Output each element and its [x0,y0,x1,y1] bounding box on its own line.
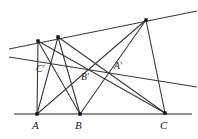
upper-line-P1P2P3 [9,11,197,49]
segment-A-P1 [37,41,38,114]
lines-group [9,11,197,114]
vertex-marker-p1 [36,39,39,42]
segment-C-P2 [58,37,165,113]
vertex-marker-p2 [56,35,59,38]
point-label-C-prime: C' [36,65,44,75]
segment-C-P1 [38,41,165,113]
point-label-A: A [32,120,39,131]
point-label-B: B [75,120,82,131]
point-label-B-prime: B' [81,73,89,83]
geometry-figure: A B C A' B' C' [0,0,198,139]
vertex-marker-a [35,112,38,115]
segment-A-P2 [37,37,58,114]
segment-B-P3 [80,20,146,114]
point-label-C: C [160,120,167,131]
segment-B-P2 [58,37,80,114]
point-label-A-prime: A' [114,62,122,72]
segment-C-P3 [146,20,165,113]
vertex-marker-c [163,111,166,114]
vertex-marker-b [78,112,81,115]
vertex-marker-p3 [144,18,147,21]
segment-B-P1 [38,41,80,114]
pappus-diagram-canvas [0,0,198,139]
